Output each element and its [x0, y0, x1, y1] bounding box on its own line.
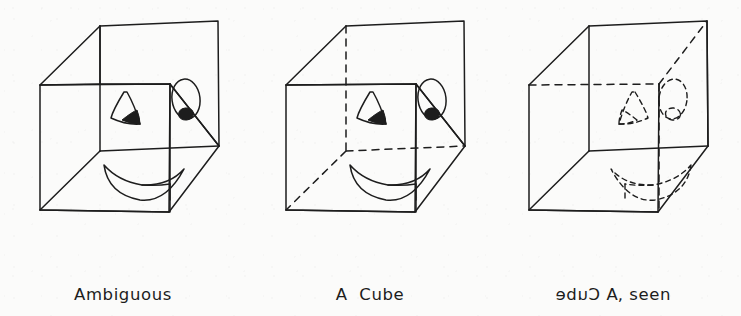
cube-far-bottom-horizontal-solid [589, 146, 708, 151]
cube-front-bottom-edge [286, 210, 415, 212]
caption-ambiguous-figure: Ambiguous figure [0, 232, 250, 316]
cube-near-face-left-bottom [529, 84, 659, 212]
hidden-edge-diagonal-dashed [286, 151, 346, 210]
oval-eye-pupil [424, 107, 440, 121]
figure-panel-ambiguous: Ambiguous figure [0, 0, 250, 316]
crescent-mouth-outline [611, 165, 691, 200]
triangle-eye-outline [619, 92, 648, 124]
cube-diagonal-lower-left [40, 151, 100, 210]
cube-front-face-outline [286, 84, 416, 212]
cube-drawing-ambiguous [0, 6, 250, 228]
cube-diagonal-upper-left [40, 26, 100, 85]
oval-eye-pupil [178, 107, 194, 121]
hidden-edge-diagonal-dashed [659, 21, 707, 84]
cube-back-lower-horizontal-edge [100, 146, 219, 151]
cube-top-front-edge [286, 84, 416, 85]
caption-line-1: A Cube [246, 282, 494, 307]
crescent-mouth-outline [350, 165, 430, 200]
cube-drawing-a-cube [246, 6, 494, 228]
crescent-mouth-outline [104, 165, 184, 200]
cube-diagonal-upper-left [529, 26, 589, 85]
triangle-eye-pupil [368, 110, 386, 124]
hidden-edge-horizontal-dashed [529, 84, 659, 85]
caption-line-1: Ambiguous [0, 282, 250, 307]
cube-diagonal-lower-left-solid [529, 151, 589, 210]
triangle-eye-pupil [122, 110, 140, 124]
cube-diagonal-lower-right [415, 146, 465, 212]
oval-eye-pupil [665, 107, 681, 121]
caption-line-1: A Cube, seen [485, 282, 741, 307]
caption-line-1-tail: , seen [618, 285, 671, 304]
caption-a-cube-from-rear: A Cube, seen from rear [487, 232, 741, 316]
mirrored-a-cube-text: A Cube [555, 282, 618, 307]
oval-eye-outline [657, 77, 690, 120]
figure-panel-a-cube: A Cube [246, 0, 494, 316]
cube-drawing-from-rear [487, 6, 741, 228]
cube-diagonal-lower-right [658, 146, 708, 212]
hidden-edge-horizontal-dashed [346, 146, 465, 151]
cube-far-right-vertical-solid [707, 21, 708, 146]
cube-diagonal-upper-left [286, 26, 346, 85]
cube-diagonal-lower-right [169, 146, 219, 212]
cube-front-face-outline [40, 84, 170, 212]
caption-a-cube: A Cube [246, 232, 494, 316]
cube-near-bottom-edge [529, 210, 658, 212]
figure-panel-a-cube-from-rear: A Cube, seen from rear [487, 0, 741, 316]
cube-front-bottom-edge [40, 210, 169, 212]
